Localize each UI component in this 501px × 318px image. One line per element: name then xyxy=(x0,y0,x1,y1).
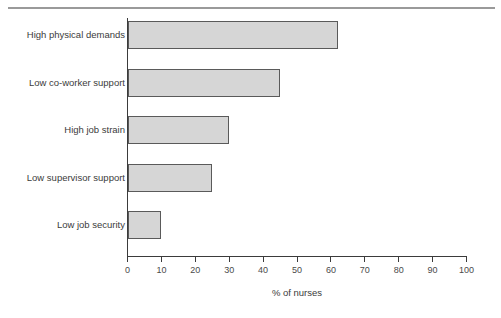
x-tick-label-50: 50 xyxy=(292,265,302,276)
x-tick-label-40: 40 xyxy=(258,265,268,276)
category-label: Low supervisor support xyxy=(0,172,125,183)
x-tick-60 xyxy=(330,257,331,262)
category-label: Low co-worker support xyxy=(0,77,125,88)
x-tick-label-30: 30 xyxy=(224,265,234,276)
category-label: High physical demands xyxy=(0,29,125,40)
bar xyxy=(128,164,213,192)
x-tick-20 xyxy=(195,257,196,262)
x-tick-label-80: 80 xyxy=(394,265,404,276)
bar-chart-figure: 0102030405060708090100 High physical dem… xyxy=(0,0,501,318)
x-tick-0 xyxy=(127,257,128,262)
x-tick-50 xyxy=(297,257,298,262)
x-tick-label-20: 20 xyxy=(190,265,200,276)
x-tick-label-90: 90 xyxy=(428,265,438,276)
bar xyxy=(128,21,338,49)
x-tick-label-70: 70 xyxy=(360,265,370,276)
x-tick-40 xyxy=(263,257,264,262)
x-tick-label-0: 0 xyxy=(125,265,130,276)
x-tick-10 xyxy=(161,257,162,262)
category-label: High job strain xyxy=(0,124,125,135)
bar xyxy=(128,69,281,97)
plot-area: 0102030405060708090100 High physical dem… xyxy=(0,0,501,318)
x-tick-90 xyxy=(432,257,433,262)
x-tick-label-10: 10 xyxy=(156,265,166,276)
x-tick-30 xyxy=(229,257,230,262)
bar xyxy=(128,116,230,144)
bar xyxy=(128,211,162,239)
x-tick-70 xyxy=(364,257,365,262)
x-tick-80 xyxy=(398,257,399,262)
x-axis-title: % of nurses xyxy=(128,287,466,298)
x-tick-label-60: 60 xyxy=(326,265,336,276)
x-tick-100 xyxy=(466,257,467,262)
category-label: Low job security xyxy=(0,219,125,230)
x-tick-label-100: 100 xyxy=(459,265,474,276)
